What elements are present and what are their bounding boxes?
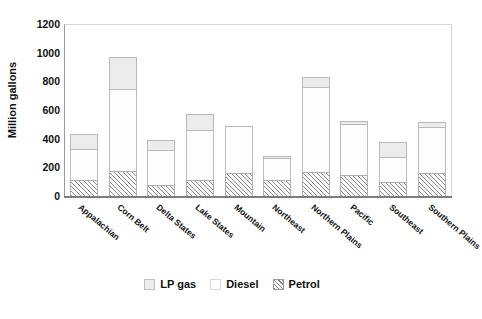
bar-series-container — [65, 25, 451, 196]
y-axis-tick: 600 — [20, 105, 60, 116]
bar-segment-petrol[interactable] — [147, 185, 175, 196]
bar-column[interactable] — [186, 25, 214, 196]
x-axis-tick-wrap: Mountain — [225, 196, 253, 276]
bar-segment-diesel[interactable] — [225, 126, 253, 173]
x-axis-tick-wrap: Pacific — [341, 196, 369, 276]
y-axis-tick: 200 — [20, 162, 60, 173]
y-axis-tick: 800 — [20, 76, 60, 87]
legend-item[interactable]: LP gas — [144, 278, 196, 290]
bar-column[interactable] — [340, 25, 368, 196]
x-axis-tick-labels: AppalachianCorn BeltDelta StatesLake Sta… — [64, 196, 452, 276]
bar-column[interactable] — [302, 25, 330, 196]
y-axis-tick: 400 — [20, 133, 60, 144]
bar-column[interactable] — [147, 25, 175, 196]
legend-label: LP gas — [160, 278, 196, 290]
bar-segment-lp-gas[interactable] — [147, 140, 175, 150]
bar-column[interactable] — [418, 25, 446, 196]
bar-segment-petrol[interactable] — [225, 173, 253, 196]
y-axis-tick: 1200 — [20, 19, 60, 30]
petrol-swatch — [273, 279, 284, 290]
bar-segment-lp-gas[interactable] — [109, 57, 137, 89]
bar-segment-diesel[interactable] — [263, 158, 291, 180]
bar-segment-diesel[interactable] — [109, 89, 137, 171]
bar-segment-lp-gas[interactable] — [302, 77, 330, 87]
plot-area — [64, 24, 452, 196]
bar-segment-petrol[interactable] — [379, 182, 407, 196]
bar-segment-diesel[interactable] — [379, 157, 407, 182]
x-axis-tick-wrap: Lake States — [186, 196, 214, 276]
y-axis-title-text: Million gallons — [6, 62, 18, 138]
x-axis-tick-wrap: Southern Plains — [419, 196, 447, 276]
bar-segment-diesel[interactable] — [340, 124, 368, 174]
y-axis-tick-labels: 120010008006004002000 — [18, 0, 60, 319]
x-axis-tick-wrap: Appalachian — [69, 196, 97, 276]
x-axis-tick-wrap: Corn Belt — [108, 196, 136, 276]
bar-segment-lp-gas[interactable] — [379, 142, 407, 156]
bar-segment-petrol[interactable] — [302, 172, 330, 196]
legend-label: Diesel — [226, 278, 258, 290]
y-axis-tick: 1000 — [20, 47, 60, 58]
x-axis-tick: Southern Plains — [426, 202, 482, 251]
x-axis-tick-wrap: Northeast — [263, 196, 291, 276]
lp-gas-swatch — [144, 279, 155, 290]
bar-segment-petrol[interactable] — [186, 180, 214, 196]
bar-segment-diesel[interactable] — [70, 149, 98, 180]
x-axis-tick-wrap: Southeast — [380, 196, 408, 276]
bar-segment-petrol[interactable] — [70, 180, 98, 196]
legend-item[interactable]: Petrol — [273, 278, 320, 290]
x-axis-tick: Pacific — [349, 202, 376, 227]
bar-segment-petrol[interactable] — [109, 171, 137, 196]
x-axis-tick-wrap: Northern Plains — [302, 196, 330, 276]
y-axis-tick: 0 — [20, 191, 60, 202]
bar-column[interactable] — [70, 25, 98, 196]
chart-legend: LP gasDieselPetrol — [0, 278, 464, 290]
bar-segment-diesel[interactable] — [147, 150, 175, 184]
bar-column[interactable] — [379, 25, 407, 196]
bar-segment-petrol[interactable] — [340, 175, 368, 197]
bar-column[interactable] — [225, 25, 253, 196]
bar-segment-petrol[interactable] — [418, 173, 446, 196]
bar-segment-diesel[interactable] — [186, 130, 214, 180]
bar-segment-lp-gas[interactable] — [70, 134, 98, 148]
bar-segment-diesel[interactable] — [418, 127, 446, 174]
legend-item[interactable]: Diesel — [210, 278, 258, 290]
diesel-swatch — [210, 279, 221, 290]
x-axis-tick-wrap: Delta States — [147, 196, 175, 276]
bar-column[interactable] — [109, 25, 137, 196]
bar-segment-lp-gas[interactable] — [186, 114, 214, 130]
bar-segment-petrol[interactable] — [263, 180, 291, 196]
bar-segment-diesel[interactable] — [302, 87, 330, 172]
bar-column[interactable] — [263, 25, 291, 196]
x-axis-tick: Mountain — [232, 202, 267, 234]
legend-label: Petrol — [289, 278, 320, 290]
